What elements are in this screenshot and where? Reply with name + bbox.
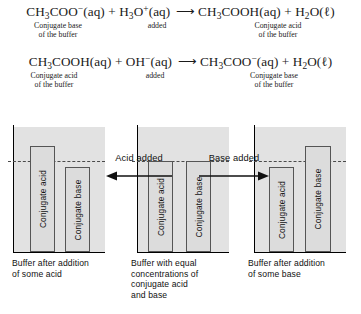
eq1-plus: +	[108, 4, 116, 19]
y-axis	[137, 125, 138, 253]
eq1-product-acetic-acid: CH3COOH(aq)	[198, 4, 281, 19]
acid-added-equation: CH3COO−(aq) + H3O+(aq) ⟶ CH3COOH(aq) + H…	[0, 0, 361, 43]
bar-conjugate-acid: Conjugate acid	[30, 146, 55, 252]
transition-label-base-added: Base added	[199, 153, 269, 163]
equation-2-captions: Conjugate acid of the buffer added Conju…	[0, 71, 361, 93]
eq2-reactant-hydroxide: OH−(aq)	[126, 54, 172, 69]
reference-line	[8, 161, 105, 162]
base-added-equation: CH3COOH(aq) + OH−(aq) ⟶ CH3COO−(aq) + H2…	[0, 43, 361, 93]
panel-background	[14, 127, 105, 253]
bar-label-conjugate-acid: Conjugate acid	[277, 180, 287, 238]
equation-2-line: CH3COOH(aq) + OH−(aq) ⟶ CH3COO−(aq) + H2…	[0, 54, 361, 71]
arrow-left-icon	[106, 170, 172, 182]
eq1-reactant-hydronium: H3O+(aq)	[119, 4, 170, 19]
caption-after-acid: Buffer after addition of some acid	[12, 258, 124, 279]
eq1-caption-conjugate-base: Conjugate base of the buffer	[6, 21, 110, 40]
panel-after-base: Conjugate acid Conjugate base	[249, 125, 346, 253]
caption-equal-concentrations: Buffer with equal concentrations of conj…	[131, 258, 235, 300]
eq2-plus: +	[115, 54, 123, 69]
buffer-bar-charts: Conjugate acid Conjugate base Conjugate …	[0, 125, 361, 314]
eq2-caption-added: added	[126, 71, 184, 80]
bar-label-conjugate-acid: Conjugate acid	[38, 170, 48, 228]
bar-conjugate-base: Conjugate base	[305, 146, 331, 252]
transition-label-acid-added: Acid added	[106, 153, 172, 163]
transition-acid-added: Acid added	[106, 153, 172, 187]
bar-label-conjugate-base: Conjugate base	[313, 169, 323, 230]
bar-label-conjugate-base: Conjugate base	[73, 179, 83, 240]
eq2-plus-2: +	[282, 54, 290, 69]
x-axis	[13, 252, 105, 253]
panel-after-acid: Conjugate acid Conjugate base	[8, 125, 105, 253]
eq2-caption-conjugate-acid: Conjugate acid of the buffer	[2, 71, 106, 90]
equation-1-captions: Conjugate base of the buffer added Conju…	[0, 21, 361, 43]
y-axis	[254, 125, 255, 253]
eq1-reactant-acetate: CH3COO−(aq)	[26, 4, 105, 19]
reaction-arrow-icon: ⟶	[176, 54, 197, 70]
panel-captions: Buffer after addition of some acid Buffe…	[0, 258, 361, 314]
eq2-product-water: H2O(ℓ)	[293, 54, 332, 69]
eq2-product-acetate: CH3COO−(aq)	[200, 54, 279, 69]
x-axis	[254, 252, 346, 253]
bar-conjugate-base: Conjugate base	[65, 167, 90, 252]
caption-after-base: Buffer after addition of some base	[248, 258, 360, 279]
eq2-caption-conjugate-base: Conjugate base of the buffer	[222, 71, 326, 90]
transition-base-added: Base added	[199, 153, 269, 187]
equation-1-line: CH3COO−(aq) + H3O+(aq) ⟶ CH3COOH(aq) + H…	[0, 4, 361, 21]
panel-equal-concentrations: Conjugate acid Conjugate base	[132, 125, 229, 253]
arrow-right-icon	[199, 170, 269, 182]
y-axis	[13, 125, 14, 253]
equations-section: CH3COO−(aq) + H3O+(aq) ⟶ CH3COOH(aq) + H…	[0, 0, 361, 93]
bar-conjugate-acid: Conjugate acid	[269, 167, 294, 252]
eq1-plus-2: +	[284, 4, 292, 19]
eq1-caption-added: added	[128, 21, 186, 30]
eq1-product-water: H2O(ℓ)	[295, 4, 334, 19]
eq2-reactant-acetic-acid: CH3COOH(aq)	[29, 54, 112, 69]
reaction-arrow-icon: ⟶	[174, 4, 195, 20]
eq1-caption-conjugate-acid: Conjugate acid of the buffer	[226, 21, 330, 40]
